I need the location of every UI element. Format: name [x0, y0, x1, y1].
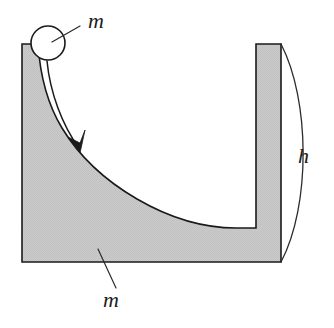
label-ball-mass: m [88, 8, 104, 33]
label-block-mass: m [103, 287, 119, 312]
curved-block-shape [22, 44, 281, 262]
label-height: h [298, 143, 309, 168]
diagram-canvas: m m h [0, 0, 334, 328]
ball-circle [31, 26, 65, 60]
physics-diagram: m m h [0, 0, 334, 328]
